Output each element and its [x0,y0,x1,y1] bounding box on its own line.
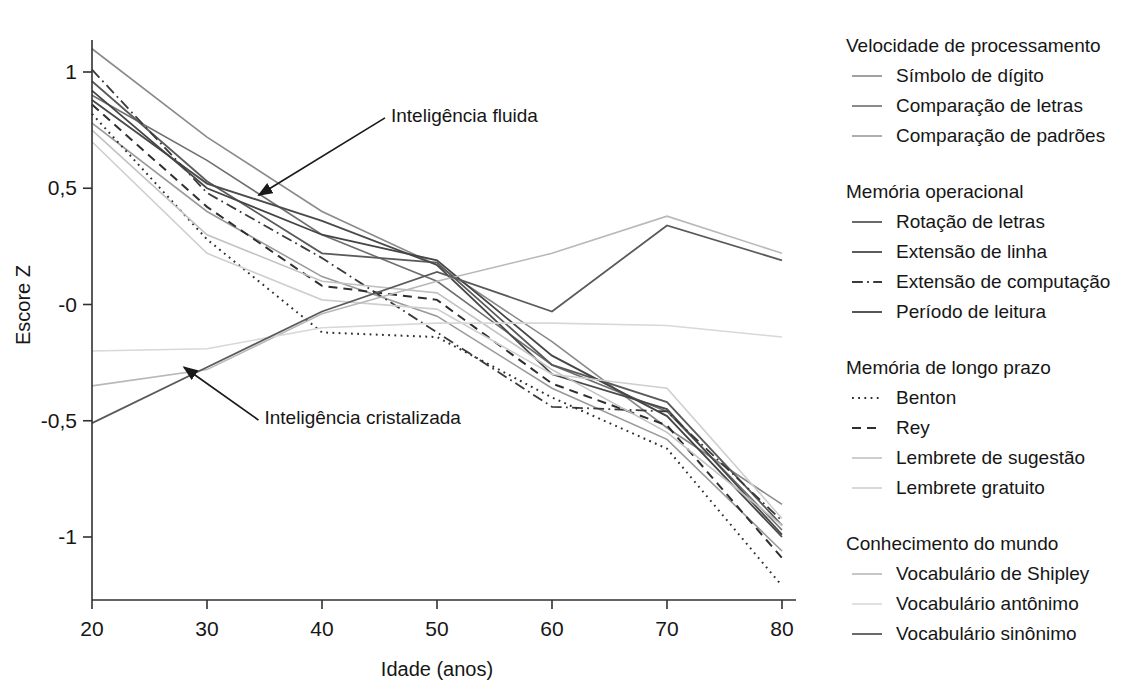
series-line [92,70,782,521]
legend-item-label: Extensão de computação [896,271,1110,292]
y-axis-title: Escore Z [12,265,34,345]
series-line [92,225,782,423]
series-line [92,142,782,519]
x-axis-tick-label: 50 [425,617,448,640]
series-line [92,81,782,525]
x-axis-tick-label: 80 [770,617,793,640]
series-line [92,323,782,351]
annotation-layer: Inteligência fluidaInteligência cristali… [184,105,538,428]
annotation-arrow [259,118,385,195]
legend-layer: Velocidade de processamentoSímbolo de dí… [846,35,1110,644]
legend-item-label: Vocabulário de Shipley [896,563,1090,584]
legend-group-title: Memória de longo prazo [846,357,1051,378]
x-axis-title: Idade (anos) [381,658,493,680]
x-axis-tick-label: 20 [80,617,103,640]
annotation-label: Inteligência cristalizada [265,407,462,428]
y-axis-tick-label: -0 [58,293,77,316]
legend-item-label: Período de leitura [896,301,1046,322]
y-axis-tick-label: 1 [65,60,77,83]
legend-group-title: Memória operacional [846,181,1023,202]
series-line [92,95,782,530]
annotation-arrow [184,367,259,420]
annotation-label: Inteligência fluida [391,105,538,126]
y-axis-tick-label: -1 [58,525,77,548]
x-axis-tick-label: 40 [310,617,333,640]
series-layer [92,49,782,586]
series-line [92,100,782,535]
legend-item-label: Rey [896,417,930,438]
legend-item-label: Vocabulário antônimo [896,593,1079,614]
legend-item-label: Rotação de letras [896,211,1045,232]
legend-group-title: Conhecimento do mundo [846,533,1058,554]
legend-item-label: Lembrete gratuito [896,477,1045,498]
y-axis-tick-label: 0,5 [48,176,77,199]
legend-item-label: Vocabulário sinônimo [896,623,1077,644]
x-axis-tick-label: 70 [655,617,678,640]
legend-item-label: Comparação de padrões [896,125,1105,146]
legend-item-label: Lembrete de sugestão [896,447,1085,468]
series-line [92,123,782,551]
series-line [92,91,782,537]
series-line [92,114,782,586]
axes-layer: 10,5-0-0,5-120304050607080Idade (anos)Es… [12,40,796,680]
legend-item-label: Símbolo de dígito [896,65,1044,86]
x-axis-tick-label: 30 [195,617,218,640]
y-axis-tick-label: -0,5 [41,409,77,432]
legend-item-label: Comparação de letras [896,95,1083,116]
series-line [92,105,782,558]
line-chart: 10,5-0-0,5-120304050607080Idade (anos)Es… [0,0,1141,695]
series-line [92,130,782,525]
legend-item-label: Extensão de linha [896,241,1047,262]
x-axis-tick-label: 60 [540,617,563,640]
legend-group-title: Velocidade de processamento [846,35,1101,56]
figure-container: 10,5-0-0,5-120304050607080Idade (anos)Es… [0,0,1141,695]
legend-item-label: Benton [896,387,956,408]
